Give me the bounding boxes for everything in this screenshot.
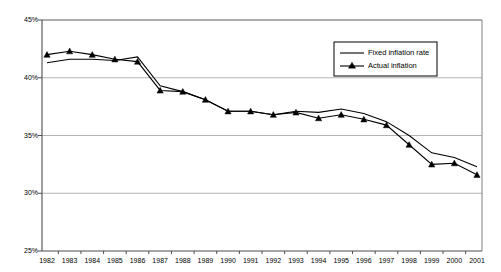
y-axis-tick-label: 25% [8, 247, 38, 254]
legend-label-fixed-inflation-rate: Fixed inflation rate [368, 49, 429, 57]
line-chart-plot [0, 0, 501, 272]
y-axis-tick-label: 35% [8, 132, 38, 139]
chart-container: 25%30%35%40%45% 198219831984198519861987… [0, 0, 501, 272]
y-axis-ticks [38, 20, 42, 251]
y-axis-tick-label: 40% [8, 74, 38, 81]
y-axis-tick-label: 45% [8, 16, 38, 23]
x-axis-tick-label: 2001 [462, 257, 492, 264]
legend-label-actual-inflation: Actual inflation [368, 62, 417, 70]
y-axis-tick-label: 30% [8, 189, 38, 196]
